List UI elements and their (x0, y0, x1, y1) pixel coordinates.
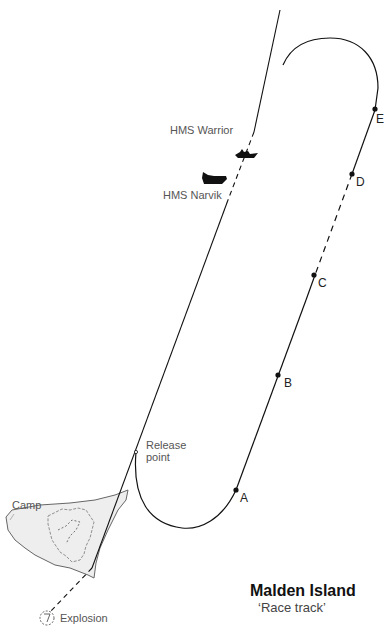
point-label-d: D (356, 176, 365, 188)
ship-label-hms-warrior: HMS Warrior (170, 125, 233, 136)
release-point-label-line2: point (146, 452, 170, 463)
release-point-label-line1: Release (146, 440, 186, 451)
explosion-icon (40, 611, 54, 625)
ship-icon (202, 172, 227, 184)
release-point-marker (134, 450, 137, 453)
point-b-marker (275, 372, 280, 377)
camp-label: Camp (12, 500, 41, 511)
ship-label-hms-narvik: HMS Narvik (163, 190, 222, 201)
point-label-e: E (376, 113, 384, 125)
point-label-b: B (284, 377, 292, 389)
diagram-title: Malden Island (250, 583, 356, 599)
diagram-subtitle: ‘Race track’ (258, 601, 326, 614)
point-label-c: C (318, 277, 327, 289)
point-e-marker (372, 106, 377, 111)
point-label-a: A (240, 492, 248, 504)
point-c-marker (311, 272, 316, 277)
explosion-label: Explosion (60, 613, 108, 624)
point-a-marker (233, 487, 238, 492)
point-d-marker (349, 171, 354, 176)
race-track-path (135, 38, 378, 528)
race-track-diagram (0, 0, 390, 629)
